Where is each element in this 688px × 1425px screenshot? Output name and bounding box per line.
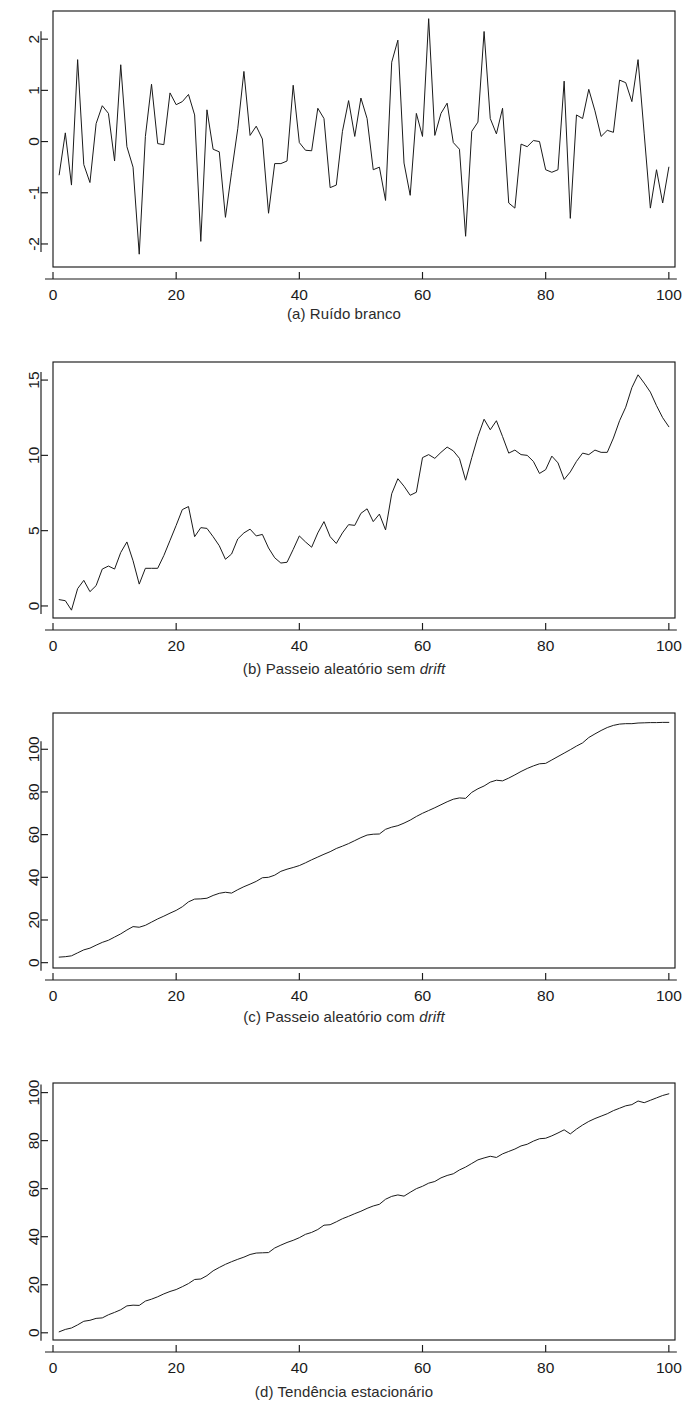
series-line xyxy=(59,722,669,957)
panel-d-caption: (d) Tendência estacionário xyxy=(0,1383,688,1400)
panel-d-caption-plain: (d) Tendência estacionário xyxy=(255,1383,433,1400)
x-tick-label: 100 xyxy=(656,286,682,300)
y-tick-label: -2 xyxy=(26,237,43,251)
x-tick-label: 0 xyxy=(49,987,58,1004)
panel-c-caption-italic: drift xyxy=(419,1008,445,1025)
x-tick-label: 100 xyxy=(656,1359,682,1376)
x-tick-label: 80 xyxy=(537,987,555,1004)
y-tick-label: 10 xyxy=(26,446,43,464)
plot-frame xyxy=(53,713,675,968)
panel-a-plot: 020406080100-2-1012 xyxy=(0,0,688,300)
x-tick-label: 40 xyxy=(291,637,309,654)
panel-b-caption-plain: (b) Passeio aleatório sem xyxy=(243,660,420,677)
panel-d-plot: 020406080100020406080100 xyxy=(0,1055,688,1380)
y-tick-label: 0 xyxy=(26,958,43,967)
plot-frame xyxy=(53,1083,675,1340)
panel-a-svg: 020406080100-2-1012 xyxy=(0,0,688,300)
y-tick-label: 60 xyxy=(26,1180,43,1198)
y-tick-label: 80 xyxy=(26,783,43,801)
x-tick-label: 80 xyxy=(537,286,555,300)
x-tick-label: 60 xyxy=(414,637,432,654)
panel-c: 020406080100020406080100 (c) Passeio ale… xyxy=(0,705,688,1055)
x-tick-label: 0 xyxy=(49,286,58,300)
x-tick-label: 40 xyxy=(291,987,309,1004)
x-tick-label: 0 xyxy=(49,1359,58,1376)
x-tick-label: 40 xyxy=(291,286,309,300)
panel-b-svg: 020406080100051015 xyxy=(0,350,688,655)
x-tick-label: 80 xyxy=(537,1359,555,1376)
y-tick-label: 80 xyxy=(26,1132,43,1150)
y-tick-label: 40 xyxy=(26,868,43,886)
panel-b-caption: (b) Passeio aleatório sem drift xyxy=(0,660,688,677)
panel-b-caption-italic: drift xyxy=(420,660,446,677)
y-tick-label: 40 xyxy=(26,1228,43,1246)
x-tick-label: 40 xyxy=(291,1359,309,1376)
y-tick-label: 2 xyxy=(26,35,43,44)
x-tick-label: 20 xyxy=(168,637,186,654)
plot-frame xyxy=(53,11,675,267)
series-line xyxy=(59,375,669,610)
x-tick-label: 100 xyxy=(656,637,682,654)
y-tick-label: 15 xyxy=(26,371,43,388)
panel-a: 020406080100-2-1012 (a) Ruído branco xyxy=(0,0,688,350)
x-tick-label: 20 xyxy=(168,987,186,1004)
plot-frame xyxy=(53,362,675,618)
panel-c-plot: 020406080100020406080100 xyxy=(0,705,688,1005)
x-tick-label: 100 xyxy=(656,987,682,1004)
x-tick-label: 20 xyxy=(168,286,186,300)
panel-c-caption-plain: (c) Passeio aleatório com xyxy=(243,1008,419,1025)
y-tick-label: 100 xyxy=(26,736,43,762)
panel-a-caption: (a) Ruído branco xyxy=(0,305,688,322)
y-tick-label: 0 xyxy=(26,137,43,146)
panel-b-plot: 020406080100051015 xyxy=(0,350,688,655)
y-tick-label: 5 xyxy=(26,526,43,535)
y-tick-label: 0 xyxy=(26,601,43,610)
panel-a-caption-plain: (a) Ruído branco xyxy=(287,305,401,322)
y-tick-label: 20 xyxy=(26,911,43,929)
panel-d-svg: 020406080100020406080100 xyxy=(0,1055,688,1380)
panel-b: 020406080100051015 (b) Passeio aleatório… xyxy=(0,350,688,705)
x-tick-label: 60 xyxy=(414,286,432,300)
y-tick-label: 100 xyxy=(26,1079,43,1105)
panel-c-svg: 020406080100020406080100 xyxy=(0,705,688,1005)
x-tick-label: 0 xyxy=(49,637,58,654)
panel-c-caption: (c) Passeio aleatório com drift xyxy=(0,1008,688,1025)
series-line xyxy=(59,1094,669,1332)
y-tick-label: 60 xyxy=(26,826,43,844)
y-tick-label: 0 xyxy=(26,1328,43,1337)
figure-time-series-panels: 020406080100-2-1012 (a) Ruído branco 020… xyxy=(0,0,688,1425)
panel-d: 020406080100020406080100 (d) Tendência e… xyxy=(0,1055,688,1425)
y-tick-label: -1 xyxy=(26,186,43,200)
y-tick-label: 1 xyxy=(26,86,43,95)
x-tick-label: 60 xyxy=(414,1359,432,1376)
x-tick-label: 80 xyxy=(537,637,555,654)
x-tick-label: 60 xyxy=(414,987,432,1004)
series-line xyxy=(59,19,669,255)
y-tick-label: 20 xyxy=(26,1276,43,1294)
x-tick-label: 20 xyxy=(168,1359,186,1376)
